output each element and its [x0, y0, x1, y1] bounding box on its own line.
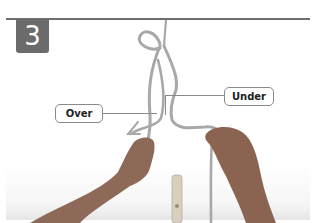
under-leader-line-vertical [165, 95, 166, 115]
over-leader-line [101, 113, 157, 114]
over-callout-label: Over [55, 104, 103, 123]
under-leader-line-horizontal [165, 95, 224, 96]
step-number-badge: 3 [16, 19, 49, 53]
under-callout-label: Under [224, 87, 274, 106]
